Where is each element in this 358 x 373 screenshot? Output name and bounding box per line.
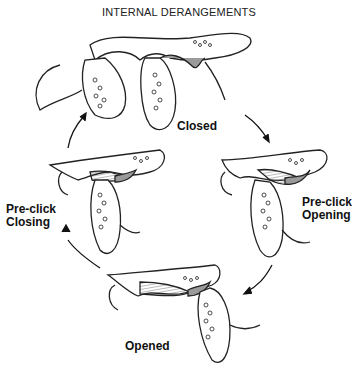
- pre-click-closing-joint-illustration: [50, 150, 164, 253]
- stage-label-line: Opening: [302, 209, 352, 222]
- arrow-closed-to-pre-click-opening: [245, 115, 269, 142]
- arrow-opened-to-pre-click-closing: [68, 240, 100, 268]
- jaw-cycle-diagram: [0, 0, 358, 373]
- stage-label-closed: Closed: [177, 120, 217, 133]
- stage-label-pre-click-closing: Pre-click Closing: [6, 203, 56, 229]
- stage-label-pre-click-opening: Pre-click Opening: [302, 196, 352, 222]
- stage-label-opened: Opened: [125, 340, 170, 353]
- arrow-pre-click-opening-to-opened: [244, 265, 272, 294]
- stage-label-line: Closing: [6, 216, 56, 229]
- arrow-head-to-pre-click-closing: [62, 225, 70, 232]
- arrow-pre-click-closing-to-closed: [68, 113, 86, 148]
- closed-joint-illustration: [36, 33, 251, 129]
